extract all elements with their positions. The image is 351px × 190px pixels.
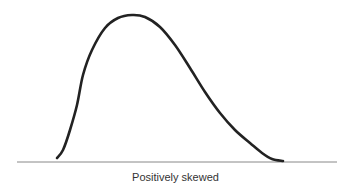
chart-caption: Positively skewed: [0, 171, 351, 183]
skewed-distribution-plot: [0, 0, 351, 190]
distribution-curve: [57, 15, 283, 161]
